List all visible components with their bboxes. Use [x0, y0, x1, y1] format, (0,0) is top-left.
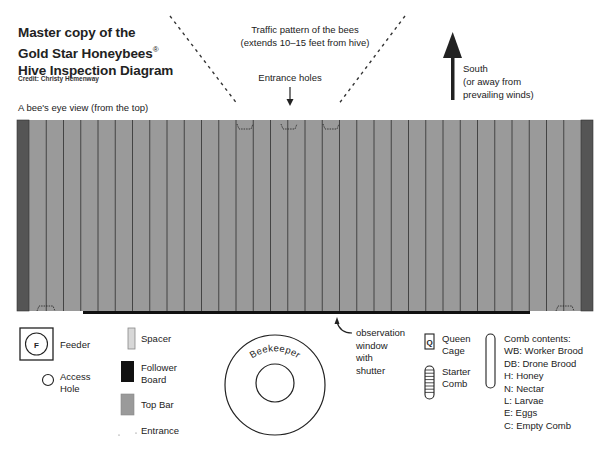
comb-item: DB: Drone Brood — [504, 358, 583, 370]
comb-item: H: Honey — [504, 370, 583, 382]
page-title: Master copy of the Gold Star Honeybees® … — [18, 24, 173, 79]
beekeeper-symbol: Beekeeper — [225, 335, 325, 435]
traffic-line-left — [170, 16, 238, 105]
entrance-arrow-icon — [287, 87, 294, 106]
top-bar-label: Top Bar — [141, 399, 174, 411]
feeder-label: Feeder — [60, 339, 90, 351]
top-bar-icon — [121, 394, 134, 415]
observation-window-label: observation window with shutter — [356, 327, 405, 377]
starter-comb-icon — [425, 366, 434, 399]
comb-item: C: Empty Comb — [504, 420, 583, 432]
comb-item: E: Eggs — [504, 407, 583, 419]
follower-board-icon — [121, 361, 134, 382]
spacer-label: Spacer — [141, 333, 171, 345]
credit-text: Credit: Christy Hemenway — [18, 75, 99, 82]
starter-comb-label: Starter Comb — [442, 366, 471, 389]
comb-contents-title: Comb contents: — [504, 333, 583, 345]
comb-item: N: Nectar — [504, 383, 583, 395]
spacer-icon — [128, 328, 135, 349]
south-arrow-icon — [443, 32, 462, 100]
svg-text:Beekeeper: Beekeeper — [247, 342, 302, 360]
follower-board-label: Follower Board — [141, 362, 177, 385]
follower-board-left — [17, 120, 29, 311]
comb-item: L: Larvae — [504, 395, 583, 407]
queen-cage-label: Queen Cage — [442, 333, 471, 356]
traffic-pattern-label: Traffic pattern of the bees (extends 10–… — [240, 24, 370, 49]
comb-icon — [486, 334, 495, 388]
beekeeper-label: Beekeeper — [247, 342, 302, 360]
follower-board-right — [581, 120, 593, 311]
view-label: A bee's eye view (from the top) — [18, 102, 148, 113]
comb-item: WB: Worker Brood — [504, 345, 583, 357]
queen-cage-icon: Q — [425, 334, 434, 349]
south-label: South (or away from prevailing winds) — [463, 62, 534, 101]
access-hole-icon — [43, 375, 54, 386]
entrance-holes-label: Entrance holes — [250, 72, 330, 83]
hive-body — [17, 120, 593, 314]
access-hole-label: Access Hole — [60, 371, 91, 394]
feeder-symbol: F — [34, 341, 39, 350]
queen-cage-symbol: Q — [426, 338, 432, 347]
observation-window — [83, 311, 530, 314]
title-line-1: Master copy of the — [18, 24, 173, 41]
entrance-icon — [118, 434, 119, 435]
comb-contents-legend: Comb contents: WB: Worker Brood DB: Dron… — [504, 333, 583, 432]
entrance-label: Entrance — [141, 425, 179, 437]
feeder-icon: F — [20, 328, 53, 360]
title-line-2: Gold Star Honeybees® — [18, 41, 173, 62]
registered-mark: ® — [153, 45, 159, 54]
observation-callout-arrow-icon — [335, 317, 353, 333]
